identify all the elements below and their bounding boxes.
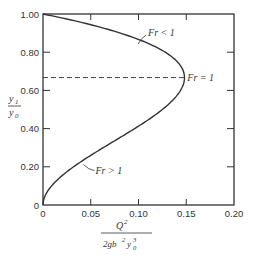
x-label-num-sup: 2 [124, 218, 128, 226]
x-label-den-y-sup: 3 [132, 236, 137, 243]
y-tick-label: 0.80 [21, 47, 40, 58]
x-tick-label: 0.15 [177, 208, 196, 219]
specific-energy-chart: 00.050.100.150.2000.200.400.600.801.00 F… [0, 0, 254, 259]
depth-ratio-curve [43, 14, 184, 205]
y-label-num: y [8, 93, 14, 104]
annotation-fr-eq-1: Fr = 1 [186, 72, 214, 83]
x-label-den-sup: 2 [122, 236, 126, 243]
x-label-den: 2gb [103, 239, 117, 249]
y-tick-label: 1.00 [21, 9, 40, 20]
y-tick-label: 0.40 [21, 123, 40, 134]
y-tick-label: 0.20 [21, 161, 40, 172]
y-axis-label: y 1 y 0 [8, 93, 21, 120]
y-tick-label: 0 [34, 200, 39, 211]
x-tick-label: 0.05 [82, 208, 101, 219]
annotations: Fr < 1Fr = 1Fr > 1 [84, 27, 215, 176]
x-axis-label: Q 2 2gb 2 y 3 0 [101, 218, 152, 251]
annotation-fr-gt-1: Fr > 1 [95, 165, 123, 176]
x-tick-label: 0 [40, 208, 45, 219]
y-label-num-sub: 1 [15, 98, 19, 106]
y-label-den-sub: 0 [15, 112, 19, 120]
y-tick-label: 0.60 [21, 85, 40, 96]
y-label-den: y [8, 107, 14, 118]
x-label-den-y-sub: 0 [133, 244, 137, 251]
annotation-fr-lt-1: Fr < 1 [147, 27, 175, 38]
x-tick-label: 0.20 [225, 208, 244, 219]
x-label-den-y: y [126, 239, 131, 249]
tick-labels: 00.050.100.150.2000.200.400.600.801.00 [21, 9, 244, 220]
x-label-num: Q [116, 220, 124, 231]
x-tick-label: 0.10 [129, 208, 148, 219]
